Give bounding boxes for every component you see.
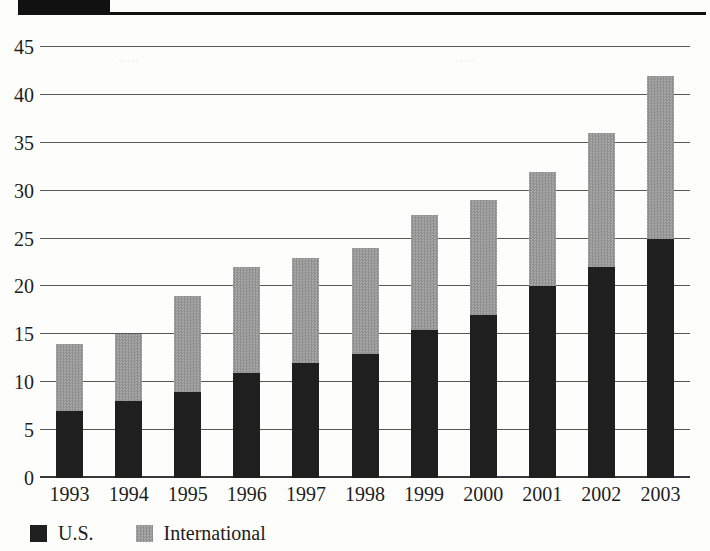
- y-tick-label: 15: [0, 324, 34, 344]
- bar-group[interactable]: [588, 133, 615, 478]
- bar-segment-international[interactable]: [529, 172, 556, 287]
- x-tick-label: 1998: [335, 482, 395, 506]
- bar-group[interactable]: [647, 76, 674, 478]
- x-tick-label: 2001: [512, 482, 572, 506]
- bar-segment-us[interactable]: [115, 401, 142, 478]
- x-tick-label: 1999: [394, 482, 454, 506]
- y-tick-label: 45: [0, 37, 34, 57]
- bar-group[interactable]: [292, 258, 319, 478]
- legend-swatch-international: [136, 525, 153, 542]
- bar-group[interactable]: [233, 267, 260, 478]
- chart-legend: U.S.International: [30, 521, 308, 545]
- y-axis-labels: 454035302520151050: [0, 47, 34, 478]
- y-tick-label: 10: [0, 372, 34, 392]
- y-tick-label: 20: [0, 276, 34, 296]
- bar-segment-international[interactable]: [470, 200, 497, 315]
- legend-swatch-us: [30, 525, 47, 542]
- legend-item[interactable]: U.S.: [30, 523, 94, 543]
- bar-group[interactable]: [352, 248, 379, 478]
- bar-segment-international[interactable]: [174, 296, 201, 392]
- y-tick-label: 0: [0, 468, 34, 488]
- bar-segment-us[interactable]: [647, 239, 674, 478]
- bar-segment-us[interactable]: [233, 373, 260, 478]
- bar-group[interactable]: [470, 200, 497, 478]
- bar-group[interactable]: [115, 334, 142, 478]
- bar-segment-international[interactable]: [292, 258, 319, 363]
- bar-group[interactable]: [56, 344, 83, 478]
- header-rule: [18, 12, 706, 15]
- bar-segment-us[interactable]: [470, 315, 497, 478]
- bar-segment-us[interactable]: [352, 354, 379, 479]
- chart-page: ····· ····· 454035302520151050 199319941…: [0, 0, 710, 551]
- x-tick-label: 2002: [571, 482, 631, 506]
- bar-segment-us[interactable]: [292, 363, 319, 478]
- bar-segment-us[interactable]: [56, 411, 83, 478]
- bar-segment-international[interactable]: [647, 76, 674, 239]
- bar-group[interactable]: [411, 215, 438, 478]
- y-tick-label: 25: [0, 229, 34, 249]
- x-tick-label: 1995: [158, 482, 218, 506]
- x-tick-label: 2000: [453, 482, 513, 506]
- bar-segment-international[interactable]: [56, 344, 83, 411]
- y-tick-label: 35: [0, 133, 34, 153]
- legend-label: International: [164, 523, 266, 543]
- legend-item[interactable]: International: [136, 523, 266, 543]
- bar-segment-us[interactable]: [174, 392, 201, 478]
- bar-segment-international[interactable]: [115, 334, 142, 401]
- bar-segment-international[interactable]: [588, 133, 615, 267]
- bar-group[interactable]: [174, 296, 201, 478]
- y-tick-label: 5: [0, 420, 34, 440]
- legend-label: U.S.: [58, 523, 94, 543]
- bar-segment-international[interactable]: [352, 248, 379, 353]
- bar-segment-us[interactable]: [588, 267, 615, 478]
- x-axis-labels: 1993199419951996199719981999200020012002…: [40, 482, 690, 508]
- bar-group[interactable]: [529, 172, 556, 478]
- y-tick-label: 30: [0, 181, 34, 201]
- bar-segment-international[interactable]: [233, 267, 260, 372]
- x-tick-label: 1994: [99, 482, 159, 506]
- plot-area: [40, 47, 690, 478]
- bar-segment-international[interactable]: [411, 215, 438, 330]
- bar-segment-us[interactable]: [411, 330, 438, 478]
- gridline-45: [40, 46, 690, 47]
- y-tick-label: 40: [0, 85, 34, 105]
- header-band: [0, 0, 710, 14]
- x-tick-label: 1997: [276, 482, 336, 506]
- gridline-40: [40, 94, 690, 95]
- bar-segment-us[interactable]: [529, 286, 556, 478]
- x-tick-label: 1996: [217, 482, 277, 506]
- x-tick-label: 2003: [630, 482, 690, 506]
- x-tick-label: 1993: [40, 482, 100, 506]
